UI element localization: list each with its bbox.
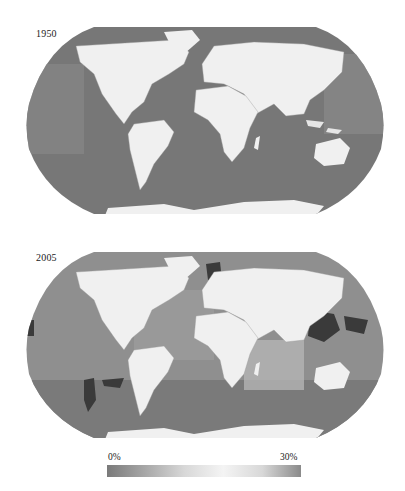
colorbar-min-label: 0% [108, 452, 121, 462]
colorbar-max-label: 30% [280, 452, 297, 462]
colorbar-gradient [107, 465, 301, 477]
world-map-2005 [24, 250, 386, 442]
world-map-1950 [24, 24, 386, 218]
